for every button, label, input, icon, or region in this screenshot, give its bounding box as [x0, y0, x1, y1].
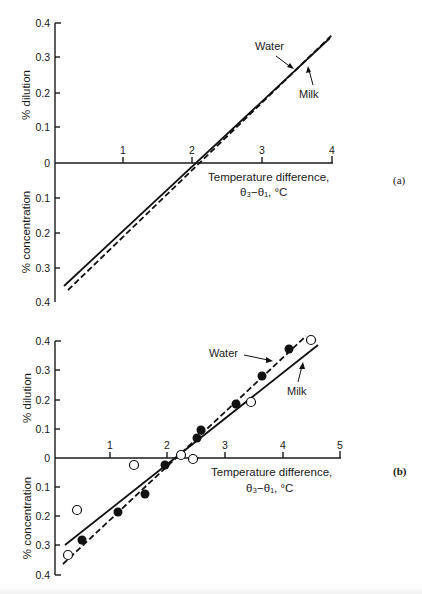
svg-text:0.4: 0.4: [35, 335, 50, 347]
svg-text:3: 3: [222, 439, 228, 451]
svg-text:4: 4: [280, 439, 286, 451]
svg-text:0.2: 0.2: [35, 87, 50, 99]
svg-text:0.1: 0.1: [35, 481, 50, 493]
svg-text:0.2: 0.2: [35, 394, 50, 406]
panel-b: 0.4 0.3 0.2 0.1 0 0.1 0.2 0.3 0.4 1 2 3 …: [21, 335, 407, 581]
svg-text:0.4: 0.4: [35, 17, 50, 29]
panel-a-water-label: Water: [255, 40, 284, 52]
svg-text:0: 0: [44, 157, 50, 169]
svg-text:3: 3: [259, 144, 265, 156]
svg-text:2: 2: [189, 144, 195, 156]
svg-text:0.1: 0.1: [35, 423, 50, 435]
panel-b-x-title-line2: θ₃−θ₁, °C: [246, 482, 293, 494]
panel-a-label: (a): [393, 174, 406, 187]
svg-text:5: 5: [337, 439, 343, 451]
svg-text:1: 1: [107, 439, 113, 451]
panel-b-x-title-line1: Temperature difference,: [211, 466, 332, 478]
panel-a-water-arrowhead-icon: [287, 63, 294, 69]
svg-text:0.4: 0.4: [35, 569, 50, 581]
panel-b-water-label: Water: [209, 347, 238, 359]
panel-a-y-title-dilution: % dilution: [20, 70, 32, 120]
panel-b-water-arrow-icon: [244, 355, 268, 360]
panel-a-x-title-line1: Temperature difference,: [208, 171, 329, 183]
panel-b-y-tick-labels: 0.4 0.3 0.2 0.1 0 0.1 0.2 0.3 0.4: [35, 335, 50, 581]
panel-b-y-title-dilution: % dilution: [21, 373, 33, 423]
svg-text:0: 0: [44, 452, 50, 464]
svg-text:2: 2: [164, 439, 170, 451]
svg-text:4: 4: [329, 144, 335, 156]
panel-a-milk-label: Milk: [299, 88, 319, 100]
panel-b-milk-label: Milk: [287, 385, 307, 397]
caption-fragment: [0, 586, 422, 594]
svg-text:0.1: 0.1: [35, 192, 50, 204]
panel-a-y-tick-labels: 0.4 0.3 0.2 0.1 0 0.1 0.2 0.3 0.4: [35, 17, 50, 308]
svg-text:0.3: 0.3: [35, 51, 50, 63]
panel-a: 0.4 0.3 0.2 0.1 0 0.1 0.2 0.3 0.4 1 2 3 …: [20, 17, 406, 308]
panel-b-water-fit-line: [63, 336, 306, 564]
svg-text:0.3: 0.3: [35, 262, 50, 274]
svg-text:0.3: 0.3: [35, 539, 50, 551]
panel-b-label: (b): [393, 465, 407, 478]
panel-a-y-title-concentration: % concentration: [20, 191, 32, 273]
panel-b-y-title-concentration: % concentration: [21, 477, 33, 559]
panel-a-milk-arrowhead-icon: [306, 66, 311, 73]
svg-text:0.2: 0.2: [35, 510, 50, 522]
panel-b-milk-arrowhead-icon: [299, 362, 305, 369]
panel-b-x-tick-labels: 1 2 3 4 5: [107, 439, 343, 451]
figure-canvas: 0.4 0.3 0.2 0.1 0 0.1 0.2 0.3 0.4 1 2 3 …: [0, 0, 422, 594]
svg-text:1: 1: [120, 144, 126, 156]
svg-text:0.2: 0.2: [35, 227, 50, 239]
panel-a-x-tick-labels: 1 2 3 4: [120, 144, 335, 156]
panel-b-x-axis: [55, 451, 341, 458]
svg-text:0.3: 0.3: [35, 364, 50, 376]
panel-b-water-arrowhead-icon: [266, 357, 273, 363]
svg-text:0.4: 0.4: [35, 296, 50, 308]
panel-a-x-title-line2: θ₃−θ₁, °C: [240, 186, 287, 198]
panel-a-x-axis: [55, 156, 333, 163]
svg-text:0.1: 0.1: [35, 121, 50, 133]
